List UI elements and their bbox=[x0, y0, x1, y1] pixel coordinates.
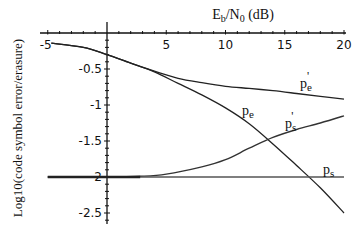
x-tick-label: 10 bbox=[218, 38, 233, 52]
y-tick-label: -1 bbox=[90, 98, 102, 112]
y-tick-label: -2.5 bbox=[79, 206, 102, 220]
x-tick-label: 15 bbox=[277, 38, 292, 52]
axes bbox=[40, 22, 346, 224]
series-labels: pe' pe ps' ps bbox=[242, 69, 334, 179]
y-tick-label: -1.5 bbox=[79, 134, 102, 148]
label-ps-prime: ps' bbox=[285, 109, 296, 133]
label-pe-prime: pe' bbox=[300, 69, 312, 93]
x-tick-label: 5 bbox=[162, 38, 170, 52]
y-axis-label: Log10(code symbol error/erasure) bbox=[10, 39, 25, 217]
label-ps: ps bbox=[323, 162, 334, 179]
chart: Eb/N0 (dB) Log10(code symbol error/erasu… bbox=[0, 0, 357, 232]
chart-title: Eb/N0 (dB) bbox=[212, 7, 274, 24]
label-pe: pe bbox=[242, 103, 254, 120]
x-tick-label: 20 bbox=[336, 38, 351, 52]
x-tick-label: -5 bbox=[40, 38, 52, 52]
tick-labels: -55101520-0.5-1-1.5-2-2.5 bbox=[40, 38, 352, 220]
y-tick-label: -0.5 bbox=[79, 62, 102, 76]
